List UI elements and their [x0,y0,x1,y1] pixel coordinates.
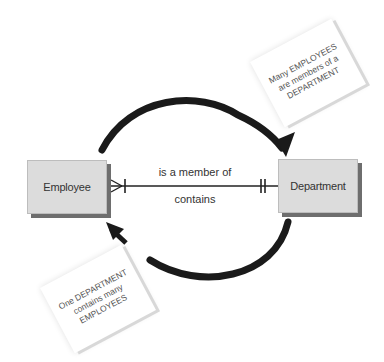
crows-foot-upper [111,180,122,186]
relationship-label-reverse: contains [115,193,275,205]
entity-department: Department [278,159,358,213]
er-diagram: Employee Department is a member of conta… [0,0,384,362]
note-top-right-text: Many EMPLOYEES are members of a DEPARTME… [267,41,349,106]
bottom-arc [150,222,288,277]
note-bottom-left-text: One DEPARTMENT contains many EMPLOYEES [57,267,140,332]
crows-foot-lower [111,186,122,192]
relationship-label-forward: is a member of [115,166,275,178]
entity-employee: Employee [27,160,107,214]
top-arc-arrow [102,101,282,150]
entity-employee-label: Employee [43,181,90,193]
entity-department-label: Department [290,180,345,192]
top-arrowhead-icon [276,132,295,157]
